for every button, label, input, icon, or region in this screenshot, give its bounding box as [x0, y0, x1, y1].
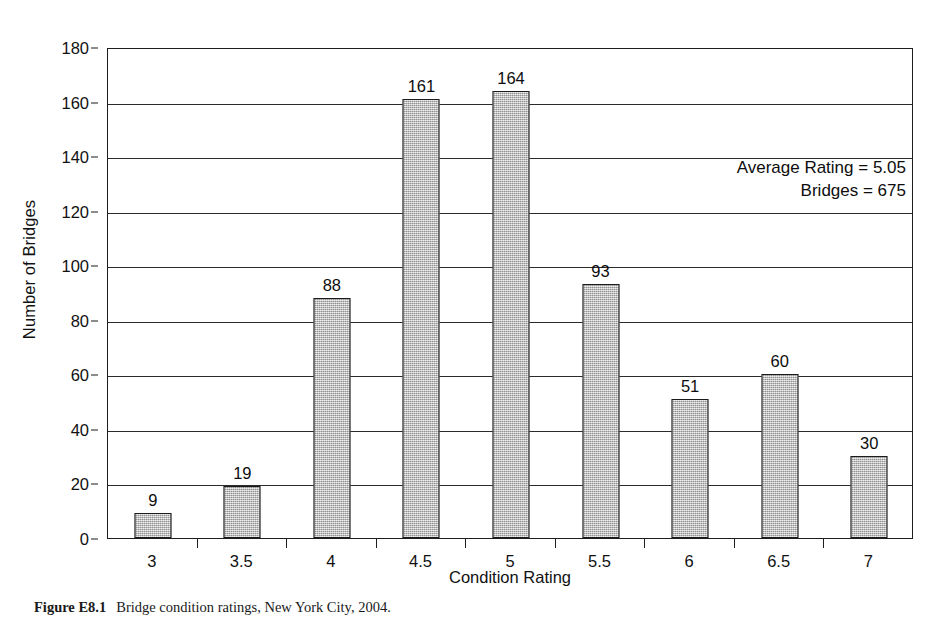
bar-group: 19: [198, 49, 288, 538]
bar: [851, 456, 888, 538]
annotation-bridges-count: Bridges = 675: [737, 180, 906, 203]
bar-value-label: 9: [148, 491, 157, 510]
bar-value-label: 88: [323, 276, 341, 295]
bar-group: 9: [108, 49, 198, 538]
y-tick-mark: [91, 102, 98, 103]
bar: [672, 399, 709, 538]
bar-value-label: 164: [497, 69, 525, 88]
annotation-average-rating: Average Rating = 5.05: [737, 157, 906, 180]
plot-area: 9198816116493516030: [107, 48, 913, 539]
chart-annotation: Average Rating = 5.05 Bridges = 675: [737, 157, 906, 203]
y-tick-label: 100: [61, 257, 89, 276]
bar: [582, 284, 619, 538]
y-tick-label: 60: [71, 366, 89, 385]
y-tick-label: 120: [61, 202, 89, 221]
y-tick-label: 180: [61, 39, 89, 58]
bar: [403, 99, 440, 538]
bar-group: 60: [735, 49, 825, 538]
bar: [492, 91, 529, 538]
x-axis-title: Condition Rating: [107, 568, 913, 587]
x-tick-mark: [376, 539, 377, 548]
bar-group: 164: [466, 49, 556, 538]
y-tick-label: 0: [80, 530, 89, 549]
bar-value-label: 93: [591, 262, 609, 281]
bar-group: 51: [645, 49, 735, 538]
x-tick-mark: [644, 539, 645, 548]
x-tick-mark: [197, 539, 198, 548]
x-tick-mark: [734, 539, 735, 548]
bar-value-label: 30: [860, 434, 878, 453]
bar-series: 9198816116493516030: [108, 49, 912, 538]
y-tick-mark: [91, 484, 98, 485]
bar-chart-figure: Number of Bridges 0204060801001201401601…: [0, 0, 936, 617]
y-tick-mark: [91, 266, 98, 267]
bar-value-label: 60: [770, 352, 788, 371]
y-tick-mark: [91, 375, 98, 376]
x-tick-mark: [823, 539, 824, 548]
bar-group: 30: [824, 49, 914, 538]
y-axis-ticks: 020406080100120140160180: [40, 48, 98, 539]
y-tick-label: 40: [71, 420, 89, 439]
y-tick-mark: [91, 157, 98, 158]
bar-value-label: 51: [681, 377, 699, 396]
figure-caption-label: Figure E8.1: [34, 599, 106, 615]
x-tick-mark: [465, 539, 466, 548]
y-tick-mark: [91, 539, 98, 540]
y-tick-mark: [91, 320, 98, 321]
bar: [313, 298, 350, 538]
y-tick-mark: [91, 429, 98, 430]
x-tick-mark: [555, 539, 556, 548]
y-tick-label: 140: [61, 148, 89, 167]
y-tick-mark: [91, 48, 98, 49]
bar-group: 88: [287, 49, 377, 538]
y-tick-label: 20: [71, 475, 89, 494]
bar: [224, 486, 261, 538]
y-tick-label: 160: [61, 93, 89, 112]
bar: [134, 513, 171, 538]
bar-group: 161: [377, 49, 467, 538]
y-axis-title-text: Number of Bridges: [21, 200, 40, 339]
figure-caption: Figure E8.1Bridge condition ratings, New…: [34, 599, 914, 616]
y-tick-mark: [91, 211, 98, 212]
bar-group: 93: [556, 49, 646, 538]
bar-value-label: 161: [408, 77, 436, 96]
bar-value-label: 19: [233, 464, 251, 483]
figure-caption-text: Bridge condition ratings, New York City,…: [116, 599, 391, 615]
y-tick-label: 80: [71, 311, 89, 330]
bar: [761, 374, 798, 538]
x-tick-mark: [286, 539, 287, 548]
